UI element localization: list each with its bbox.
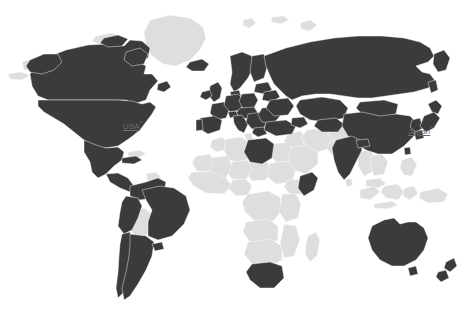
region-new-zealand-south[interactable] <box>436 270 449 282</box>
region-australia[interactable] <box>368 218 428 266</box>
region-iceland[interactable] <box>186 59 209 71</box>
region-svalbard[interactable] <box>243 18 256 28</box>
region-arctic-islands[interactable] <box>271 16 289 24</box>
region-poland[interactable] <box>239 93 258 109</box>
region-java[interactable] <box>374 201 398 209</box>
region-kamchatka[interactable] <box>433 50 450 72</box>
world-map-container: USA* Japan* <box>0 0 470 316</box>
region-drc[interactable] <box>242 191 282 222</box>
region-kenya-tanzania[interactable] <box>279 194 301 222</box>
map-label-usa-footnote: * <box>140 119 142 128</box>
region-japan[interactable] <box>428 100 442 114</box>
region-newfoundland[interactable] <box>157 81 171 92</box>
world-map-svg <box>0 0 470 316</box>
region-aleutians[interactable] <box>8 72 30 80</box>
region-united-kingdom[interactable] <box>209 82 222 102</box>
region-russia[interactable] <box>264 36 436 100</box>
region-portugal[interactable] <box>196 119 203 131</box>
region-novaya-zemlya[interactable] <box>300 20 317 31</box>
map-label-japan-footnote: * <box>430 124 432 133</box>
region-philippines[interactable] <box>400 157 417 176</box>
map-label-usa-text: USA <box>123 122 140 131</box>
region-malaysia[interactable] <box>366 178 386 188</box>
map-label-japan-text: Japan <box>408 127 430 136</box>
region-sulawesi[interactable] <box>403 186 418 200</box>
region-greenland[interactable] <box>144 15 206 66</box>
region-libya[interactable] <box>244 138 274 164</box>
region-taiwan[interactable] <box>404 147 411 155</box>
region-borneo[interactable] <box>381 184 404 200</box>
region-madagascar[interactable] <box>305 232 320 262</box>
region-indochina[interactable] <box>370 154 388 176</box>
map-label-usa[interactable]: USA* <box>123 119 142 131</box>
region-papua-new-guinea[interactable] <box>419 188 448 203</box>
region-south-africa[interactable] <box>246 262 284 288</box>
region-tasmania[interactable] <box>408 266 418 276</box>
region-ireland[interactable] <box>200 90 212 100</box>
region-mozambique[interactable] <box>280 224 300 258</box>
region-nigeria[interactable] <box>229 179 252 196</box>
region-sakhalin[interactable] <box>428 80 438 93</box>
region-sri-lanka[interactable] <box>345 178 353 187</box>
map-label-japan[interactable]: Japan* <box>408 124 433 136</box>
region-sumatra[interactable] <box>360 186 380 200</box>
